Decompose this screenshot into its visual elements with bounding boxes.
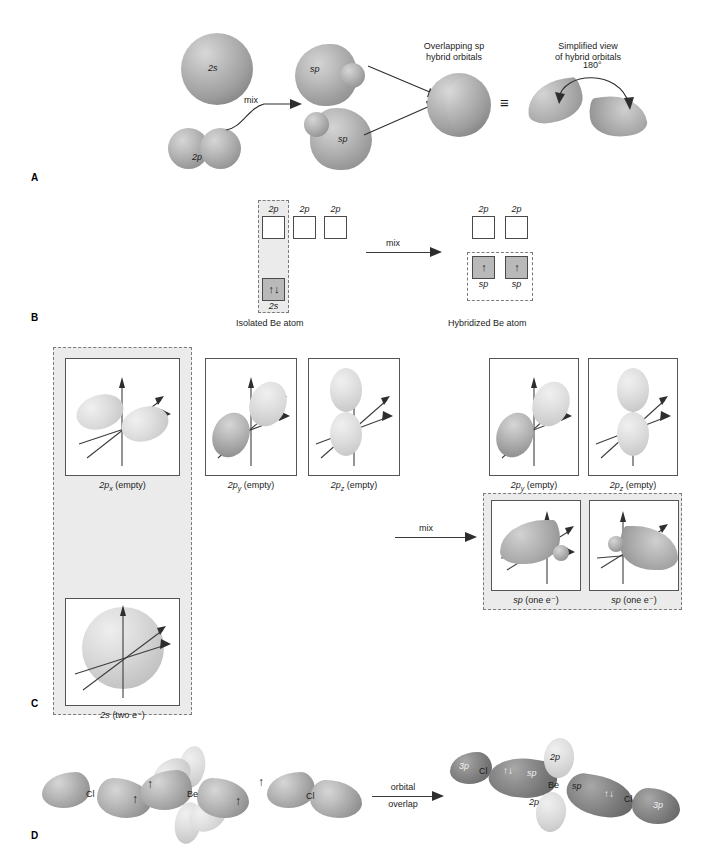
simplified-caption-line1: Simplified view	[528, 41, 648, 52]
orbital-2pz-caption: 2pz (empty)	[308, 480, 400, 494]
bond-angle-label: 180°	[583, 60, 602, 71]
panel-c-letter: C	[31, 698, 38, 709]
cl-right-spin-arrow: ↑	[258, 775, 264, 789]
cl-left-spin-arrow: ↑	[132, 792, 138, 806]
product-be-label: Be	[548, 780, 559, 791]
mix-label-b: mix	[386, 238, 400, 249]
cl-left-lobe-outer	[42, 772, 90, 808]
mix-arrow-b-head	[430, 247, 444, 259]
isolated-2p-label-2: 2p	[323, 204, 348, 215]
sp-orbital-upper-label: sp	[310, 64, 320, 75]
hybrid-sp-electrons-0: ↑	[474, 258, 494, 277]
mix-arrow-b-line	[366, 252, 432, 253]
isolated-2s-label: 2s	[261, 301, 286, 312]
orbital-sp-left-caption-tail: (one e⁻)	[523, 595, 559, 605]
hybrid-sp-electrons-1: ↑	[507, 258, 527, 277]
orbital-2s-caption: 2s (two e⁻)	[65, 710, 180, 721]
panel-b-letter: B	[31, 312, 38, 323]
panel-d: Cl ↑ Be ↑ ↑ Cl ↑ orbital overlap 3p Cl ↑…	[0, 730, 709, 848]
orbital-sp-right-caption: sp (one e⁻)	[589, 595, 679, 606]
be-spin-left-arrow: ↑	[147, 777, 153, 791]
orbital-overlap-arrow-line	[372, 796, 434, 797]
isolated-2p-box-0	[262, 216, 285, 239]
sp-orbital-lower-label: sp	[338, 134, 348, 145]
hybrid-2p-box-0	[472, 216, 495, 239]
cl-right-lobe-inner	[267, 772, 315, 808]
orbital-sp-right-caption-main: sp	[611, 595, 621, 605]
orbital-2px-caption-main: 2p	[99, 480, 109, 490]
mix-label-c: mix	[419, 523, 433, 534]
overlapping-sp-seam	[446, 76, 488, 134]
panel-c: 2px (empty) 2py (empty) 2pz (empty) 2s (…	[0, 340, 709, 730]
orbital-2py-caption: 2py (empty)	[205, 480, 297, 494]
orbital-2py-caption-main: 2p	[228, 480, 238, 490]
panel-a-letter: A	[31, 172, 38, 183]
sp-orbital-lower-small-lobe	[304, 112, 329, 137]
orbital-sp-left-caption-main: sp	[513, 595, 523, 605]
orbital-2py-caption-tail: (empty)	[241, 480, 274, 490]
cl-left-label: Cl	[86, 789, 95, 800]
orbital-2pz-right-caption-main: 2p	[610, 480, 620, 490]
product-2p-bottom-label: 2p	[529, 797, 539, 808]
orbital-2pz-right-lobe-bottom	[617, 412, 649, 456]
isolated-2p-box-1	[293, 216, 316, 239]
be-sp-lobe-right	[197, 778, 249, 818]
isolated-2p-label-1: 2p	[292, 204, 317, 215]
orbital-2pz-lobe-top	[330, 368, 362, 412]
product-sp-right-label: sp	[572, 781, 582, 792]
orbital-sp-right-caption-tail: (one e⁻)	[621, 595, 657, 605]
product-2p-top-label: 2p	[550, 752, 560, 763]
axes-2s	[65, 598, 180, 706]
sp-left-minor-lobe	[553, 545, 569, 561]
orbital-2pz-lobe-bottom	[330, 412, 362, 456]
orbital-2py-right-caption-main: 2p	[511, 480, 521, 490]
sp-right-minor-lobe	[608, 536, 624, 552]
mix-arrow-a	[224, 88, 304, 138]
orbital-overlap-arrow-head	[432, 791, 446, 803]
orbital-2pz-caption-main: 2p	[331, 480, 341, 490]
orbital-2px-caption: 2px (empty)	[65, 480, 180, 494]
isolated-be-caption: Isolated Be atom	[236, 318, 304, 329]
product-pair-right: ↑↓	[604, 788, 614, 799]
orbital-2py-right-caption-tail: (empty)	[524, 480, 557, 490]
orbital-2p-label: 2p	[192, 152, 202, 163]
panel-a: 2s 2p mix sp sp Overlapping sp hybrid or…	[0, 0, 709, 190]
hybrid-sp-label-0: sp	[471, 279, 496, 290]
sp-orbital-upper-small-lobe	[340, 63, 365, 88]
cl-right-lobe-outer	[310, 780, 362, 818]
product-cl-left-label: Cl	[479, 766, 488, 777]
be-spin-right-arrow: ↑	[235, 794, 241, 808]
mix-label-a: mix	[244, 95, 258, 106]
orbital-2s-label: 2s	[208, 63, 218, 74]
product-sp-left-label: sp	[527, 768, 537, 779]
orbital-overlap-line1: orbital	[372, 782, 434, 793]
orbital-2s-caption-tail: (two e⁻)	[110, 710, 145, 720]
orbital-sp-left-caption: sp (one e⁻)	[491, 595, 581, 606]
product-pair-left: ↑↓	[503, 765, 513, 776]
isolated-2s-electrons: ↑↓	[264, 280, 284, 299]
hybrid-2p-label-1: 2p	[504, 204, 529, 215]
hybrid-sp-label-1: sp	[504, 279, 529, 290]
overlap-caption-line2: hybrid orbitals	[399, 52, 509, 63]
be-label-reactant: Be	[187, 789, 198, 800]
orbital-2s-caption-main: 2s	[100, 710, 110, 720]
panel-b: 2p 2p 2p ↑↓ 2s Isolated Be atom mix 2p 2…	[0, 190, 709, 340]
hybridized-be-caption: Hybridized Be atom	[448, 318, 527, 329]
product-3p-right-label: 3p	[653, 800, 663, 811]
isolated-2p-box-2	[324, 216, 347, 239]
mix-arrow-c-head	[465, 532, 479, 544]
orbital-2px-caption-tail: (empty)	[113, 480, 146, 490]
orbital-2pz-right-lobe-top	[617, 368, 649, 412]
orbital-2py-right-caption: 2py (empty)	[489, 480, 579, 494]
hybrid-2p-label-0: 2p	[471, 204, 496, 215]
orbital-overlap-line2: overlap	[372, 799, 434, 810]
cl-right-label: Cl	[306, 791, 315, 802]
orbital-2pz-right-caption-tail: (empty)	[623, 480, 656, 490]
product-3p-left-label: 3p	[459, 761, 469, 772]
product-2p-bottom-lobe	[534, 791, 568, 834]
orbital-2pz-caption-tail: (empty)	[344, 480, 377, 490]
overlap-caption-line1: Overlapping sp	[399, 41, 509, 52]
equivalence-symbol: ≡	[500, 94, 509, 111]
mix-arrow-c-line	[395, 537, 467, 538]
hybrid-2p-box-1	[505, 216, 528, 239]
